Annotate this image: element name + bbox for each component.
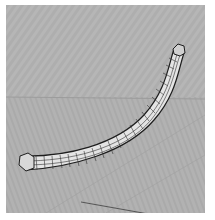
3d-viewport[interactable] (6, 5, 205, 213)
viewport-canvas[interactable] (6, 5, 205, 213)
ground-plane (6, 97, 205, 213)
